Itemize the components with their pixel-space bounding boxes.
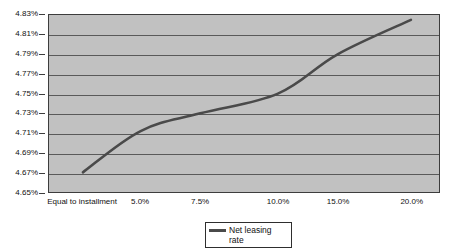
y-tick-mark bbox=[39, 34, 45, 35]
y-tick-mark bbox=[39, 94, 45, 95]
y-tick-label: 4.81% bbox=[0, 30, 38, 38]
y-tick-mark bbox=[39, 133, 45, 134]
y-tick-label: 4.79% bbox=[0, 50, 38, 58]
y-tick-label: 4.77% bbox=[0, 70, 38, 78]
y-tick-mark bbox=[39, 54, 45, 55]
y-tick-mark bbox=[39, 173, 45, 174]
series-line-net-leasing-rate bbox=[83, 20, 411, 172]
y-tick-label: 4.67% bbox=[0, 169, 38, 177]
y-tick-mark bbox=[39, 113, 45, 114]
chart-legend: Net leasing rate bbox=[205, 222, 292, 248]
line-chart: 4.65%4.67%4.69%4.71%4.73%4.75%4.77%4.79%… bbox=[0, 0, 456, 250]
y-tick-mark bbox=[39, 14, 45, 15]
y-tick-label: 4.65% bbox=[0, 189, 38, 197]
y-tick-label: 4.69% bbox=[0, 149, 38, 157]
y-tick-mark bbox=[39, 74, 45, 75]
y-tick-mark bbox=[39, 193, 45, 194]
y-tick-mark bbox=[39, 153, 45, 154]
y-tick-label: 4.83% bbox=[0, 10, 38, 18]
x-tick-label: 20.0% bbox=[369, 197, 455, 207]
x-tick-label: 7.5% bbox=[157, 197, 243, 207]
series-layer bbox=[49, 15, 439, 192]
y-tick-label: 4.75% bbox=[0, 90, 38, 98]
plot-area bbox=[48, 14, 440, 193]
y-tick-label: 4.71% bbox=[0, 129, 38, 137]
legend-swatch-net-leasing-rate bbox=[209, 229, 226, 232]
y-tick-label: 4.73% bbox=[0, 109, 38, 117]
legend-label: Net leasing rate bbox=[229, 225, 287, 245]
